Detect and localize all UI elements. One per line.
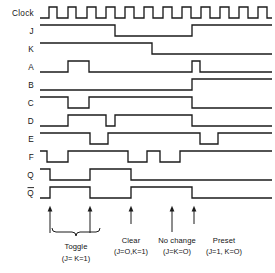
waveform-q-bar: [40, 187, 272, 198]
row-label-e: E: [28, 135, 34, 144]
row-label-j: J: [30, 27, 34, 36]
row-label-q-bar: Q: [27, 189, 34, 198]
waveform-clock: [40, 7, 272, 18]
annotation-nochange-title: No change: [158, 236, 196, 245]
row-label-f: F: [29, 153, 34, 162]
waveform-j: [40, 25, 272, 36]
event-marker-4: [170, 206, 175, 232]
waveform-b: [40, 79, 272, 90]
row-label-group: ClockJKABCDEFQQ: [12, 9, 35, 198]
row-label-d: D: [28, 117, 34, 126]
toggle-brace: [52, 228, 100, 236]
row-label-b: B: [28, 81, 34, 90]
row-label-a: A: [28, 63, 34, 72]
annotation-clear-title: Clear: [122, 236, 141, 245]
timing-diagram-canvas: ClockJKABCDEFQQ Toggle (J= K=1) Clear (J…: [0, 0, 275, 273]
waveform-group: [40, 7, 272, 198]
waveform-d: [40, 115, 272, 126]
row-label-c: C: [28, 99, 34, 108]
waveform-k: [40, 43, 272, 54]
event-marker-3: [129, 206, 134, 224]
annotation-toggle-detail: (J= K=1): [62, 254, 90, 263]
annotation-toggle-title: Toggle: [65, 242, 88, 251]
annotation-clear-detail: (J=O,K=1): [114, 247, 148, 256]
event-marker-2: [88, 206, 93, 233]
timing-diagram: ClockJKABCDEFQQ Toggle (J= K=1) Clear (J…: [0, 0, 275, 273]
annotation-preset-detail: (J=1, K=O): [206, 247, 242, 256]
waveform-f: [40, 151, 272, 162]
annotation-nochange-detail: (J=K=O): [163, 247, 191, 256]
annotation-preset-title: Preset: [213, 236, 236, 245]
waveform-e: [40, 133, 272, 144]
row-label-clock: Clock: [12, 9, 35, 18]
row-label-q: Q: [27, 171, 34, 180]
waveform-c: [40, 97, 272, 108]
row-label-k: K: [28, 45, 34, 54]
waveform-a: [40, 61, 272, 72]
event-marker-group: [48, 206, 197, 233]
event-marker-5: [192, 206, 197, 224]
waveform-q: [40, 169, 272, 180]
